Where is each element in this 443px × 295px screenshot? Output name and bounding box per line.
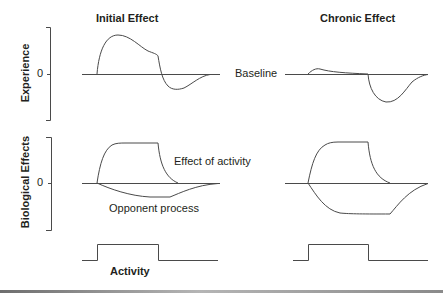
experience-chronic-curve [308,69,428,102]
bottom-divider [0,290,443,293]
effect-of-activity-chronic [308,142,390,183]
diagram-canvas [0,0,443,295]
opponent-process-initial [97,183,218,197]
activity-step-initial [82,245,218,261]
experience-axis-bracket [46,28,51,121]
biological-axis-bracket [46,138,52,231]
activity-step-chronic [293,245,428,261]
experience-initial-curve [97,35,210,89]
opponent-process-chronic [308,183,428,214]
effect-of-activity-initial [97,143,178,183]
